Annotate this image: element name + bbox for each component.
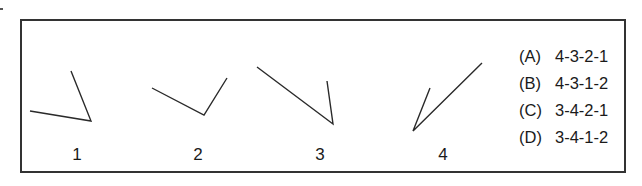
option-letter: (B) [519,74,555,93]
option-d[interactable]: (D) 3-4-1-2 [519,124,608,151]
option-letter: (A) [519,47,555,66]
option-c[interactable]: (C) 3-4-2-1 [519,97,608,124]
figure-3-label: 3 [310,145,330,165]
figure-2-label: 2 [188,145,208,165]
figure-1-label: 1 [67,145,87,165]
option-value: 3-4-1-2 [555,128,608,147]
figure-4-angle [413,63,482,131]
figure-4-label: 4 [433,145,453,165]
option-value: 4-3-2-1 [555,47,608,66]
option-value: 3-4-2-1 [555,101,608,120]
figure-2-angle [152,78,227,115]
answer-options: (A) 4-3-2-1 (B) 4-3-1-2 (C) 3-4-2-1 (D) … [519,43,608,151]
option-a[interactable]: (A) 4-3-2-1 [519,43,608,70]
option-b[interactable]: (B) 4-3-1-2 [519,70,608,97]
option-value: 4-3-1-2 [555,74,608,93]
option-letter: (D) [519,128,555,147]
figure-1-angle [30,71,91,121]
option-letter: (C) [519,101,555,120]
figure-3-angle [257,67,333,124]
